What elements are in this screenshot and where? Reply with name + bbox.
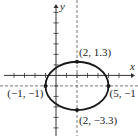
- ellipse-diagram: xy(2, 1.3)(−1, −1)(5, −1(2, −3.3): [0, 0, 138, 136]
- point-label: (5, −1: [110, 87, 136, 100]
- point-label: (−1, −1): [7, 87, 44, 100]
- point-label: (2, −3.3): [79, 114, 118, 127]
- vertex-point: [75, 108, 79, 112]
- vertex-point: [75, 60, 79, 64]
- y-axis-arrow-icon: [54, 4, 59, 8]
- y-axis-label: y: [59, 0, 65, 12]
- x-axis-arrow-icon: [131, 73, 135, 78]
- vertex-point: [44, 84, 48, 88]
- point-label: (2, 1.3): [79, 46, 111, 59]
- x-axis-label: x: [129, 60, 135, 72]
